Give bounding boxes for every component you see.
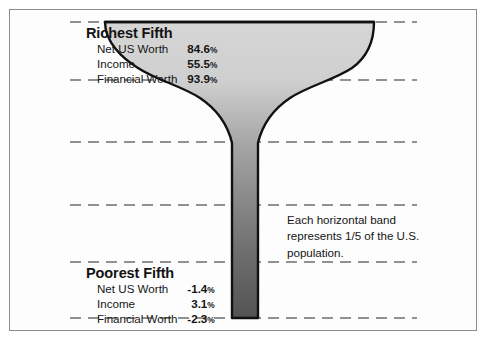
band-explanation-note: Each horizontal band represents 1/5 of t… [287,212,422,261]
stat-label: Financial Worth [97,72,187,87]
richest-fifth-title: Richest Fifth [86,26,217,41]
table-row: Income 55.5% [97,57,217,72]
percent-sign: % [207,300,214,310]
funnel-chart-graphic [0,0,487,342]
stat-number: 3.1 [191,297,207,310]
poorest-fifth-stats: Net US Worth -1.4% Income 3.1% Financial… [97,282,215,327]
stat-number: -1.4 [187,282,207,295]
stat-number: 84.6 [187,42,210,55]
stat-number: 93.9 [187,72,210,85]
wealth-distribution-figure: Richest Fifth Net US Worth 84.6% Income … [0,0,487,342]
table-row: Income 3.1% [97,297,215,312]
poorest-fifth-title: Poorest Fifth [86,266,215,281]
percent-sign: % [210,60,217,70]
table-row: Net US Worth 84.6% [97,42,217,57]
stat-value: -1.4% [187,282,214,297]
stat-value: 84.6% [187,42,217,57]
stat-label: Income [97,297,187,312]
percent-sign: % [210,45,217,55]
table-row: Financial Worth -2.3% [97,312,215,327]
table-row: Financial Worth 93.9% [97,72,217,87]
stat-value: 93.9% [187,72,217,87]
stat-value: 55.5% [187,57,217,72]
poorest-fifth-block: Poorest Fifth Net US Worth -1.4% Income … [86,266,215,327]
stat-label: Income [97,57,187,72]
stat-value: 3.1% [187,297,214,312]
stat-number: -2.3 [187,312,207,325]
stat-number: 55.5 [187,57,210,70]
percent-sign: % [210,75,217,85]
stat-label: Net US Worth [97,42,187,57]
stat-label: Financial Worth [97,312,187,327]
percent-sign: % [207,315,214,325]
percent-sign: % [207,285,214,295]
stat-value: -2.3% [187,312,214,327]
richest-fifth-block: Richest Fifth Net US Worth 84.6% Income … [86,26,217,87]
richest-fifth-stats: Net US Worth 84.6% Income 55.5% Financia… [97,42,217,87]
stat-label: Net US Worth [97,282,187,297]
table-row: Net US Worth -1.4% [97,282,215,297]
